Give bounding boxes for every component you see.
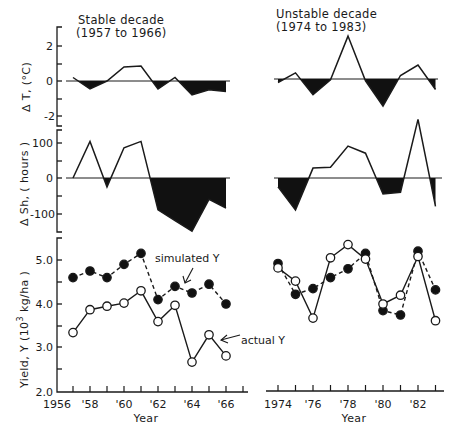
svg-text:100: 100 xyxy=(32,137,53,150)
yield-series xyxy=(69,240,440,366)
unstable-decade-title: Unstable decade xyxy=(276,7,377,21)
svg-text:'66: '66 xyxy=(217,398,234,411)
yield-axis xyxy=(57,238,444,392)
svg-text:'80: '80 xyxy=(374,398,391,411)
svg-text:-2: -2 xyxy=(44,110,55,123)
xlabel-right: Year xyxy=(341,412,367,425)
dsh-stable-series xyxy=(73,141,226,231)
dt-tick-labels: 2 0 -2 xyxy=(44,40,55,123)
yield-ylabel: Yield, Y (103 kg/ha ) xyxy=(16,271,31,389)
svg-text:'76: '76 xyxy=(304,398,321,411)
svg-text:0: 0 xyxy=(46,172,53,185)
dt-axis xyxy=(57,27,62,126)
x-tick-labels-right: 1974 '76 '78 '80 '82 xyxy=(264,398,427,411)
simulated-y-annotation: simulated Y xyxy=(155,252,220,265)
simulated-arrow-icon xyxy=(183,268,193,283)
svg-text:'82: '82 xyxy=(409,398,426,411)
svg-text:1956: 1956 xyxy=(43,398,71,411)
svg-text:3.0: 3.0 xyxy=(36,341,54,354)
climate-yield-figure: Stable decade (1957 to 1966) Unstable de… xyxy=(0,0,455,428)
xlabel-left: Year xyxy=(133,412,159,425)
stable-decade-title: Stable decade xyxy=(78,13,164,27)
svg-text:4.0: 4.0 xyxy=(36,298,54,311)
svg-text:'60: '60 xyxy=(115,398,132,411)
yield-tick-labels: 5.0 4.0 3.0 2.0 xyxy=(36,254,54,399)
dt-unstable-series xyxy=(278,36,436,106)
svg-text:0: 0 xyxy=(46,75,53,88)
dsh-axis xyxy=(57,130,62,232)
svg-text:1974: 1974 xyxy=(264,398,292,411)
svg-text:'58: '58 xyxy=(81,398,98,411)
svg-text:'64: '64 xyxy=(183,398,200,411)
svg-text:'62: '62 xyxy=(149,398,166,411)
svg-text:'78: '78 xyxy=(339,398,356,411)
actual-arrow-icon xyxy=(221,335,240,343)
stable-decade-years: (1957 to 1966) xyxy=(76,26,167,40)
svg-text:5.0: 5.0 xyxy=(36,254,54,267)
svg-text:2: 2 xyxy=(46,40,53,53)
dsh-unstable-series xyxy=(278,119,436,209)
svg-text:-100: -100 xyxy=(30,208,55,221)
dsh-tick-labels: 100 0 -100 xyxy=(30,137,55,221)
dsh-ylabel: Δ Sh, ( hours ) xyxy=(18,142,31,226)
actual-y-annotation: actual Y xyxy=(241,334,285,347)
unstable-decade-years: (1974 to 1983) xyxy=(276,20,367,34)
x-tick-labels-left: 1956 '58 '60 '62 '64 '66 xyxy=(43,398,235,411)
dt-ylabel: Δ T, (°C) xyxy=(20,62,33,112)
